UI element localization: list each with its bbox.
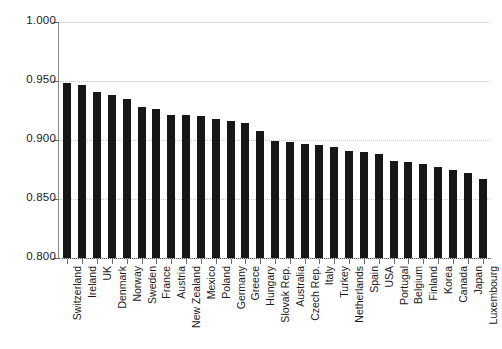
bar	[271, 141, 279, 258]
bar	[256, 131, 264, 258]
x-tick-label: Norway	[131, 266, 143, 302]
bar	[212, 119, 220, 258]
y-tick-label: 0.900	[0, 132, 56, 144]
x-tick-mark	[349, 259, 350, 264]
x-tick-label: France	[160, 266, 172, 299]
x-tick-label: USA	[383, 266, 395, 288]
x-tick-label: Greece	[249, 266, 261, 300]
x-tick-label: Ireland	[86, 266, 98, 298]
x-tick-mark	[483, 259, 484, 264]
x-tick-label: Portugal	[398, 266, 410, 305]
x-tick-mark	[216, 259, 217, 264]
x-tick-mark	[275, 259, 276, 264]
x-tick-mark	[379, 259, 380, 264]
x-tick-label: Germany	[235, 266, 247, 309]
x-tick-mark	[468, 259, 469, 264]
x-tick-label: Slovak Rep.	[279, 266, 291, 323]
x-tick-label: Czech Rep.	[309, 266, 321, 321]
x-tick-mark	[67, 259, 68, 264]
x-tick-label: Sweden	[146, 266, 158, 304]
bar	[123, 99, 131, 258]
bar	[286, 142, 294, 258]
x-tick-label: Hungary	[264, 266, 276, 306]
x-tick-label: Netherlands	[353, 266, 365, 323]
bar	[479, 179, 487, 258]
bar	[93, 92, 101, 258]
bar	[182, 115, 190, 258]
x-tick-label: UK	[101, 266, 113, 281]
x-tick-mark	[438, 259, 439, 264]
x-tick-label: Luxembourg	[487, 266, 499, 324]
x-tick-mark	[142, 259, 143, 264]
y-tick-label: 0.800	[0, 250, 56, 262]
x-tick-label: Canada	[457, 266, 469, 303]
x-tick-mark	[127, 259, 128, 264]
x-tick-mark	[231, 259, 232, 264]
x-tick-label: Korea	[442, 266, 454, 294]
bar	[108, 95, 116, 258]
bar	[330, 147, 338, 258]
bar	[301, 144, 309, 258]
x-tick-label: Spain	[368, 266, 380, 293]
x-tick-mark	[394, 259, 395, 264]
x-tick-mark	[334, 259, 335, 264]
bar	[434, 167, 442, 258]
x-tick-label: Finland	[427, 266, 439, 300]
bar	[345, 151, 353, 258]
bar-chart: 1.0000.9500.9000.8500.800 SwitzerlandIre…	[0, 0, 502, 349]
x-tick-mark	[408, 259, 409, 264]
bar	[449, 170, 457, 259]
y-tick-label: 0.850	[0, 191, 56, 203]
x-tick-label: Austria	[175, 266, 187, 299]
x-tick-mark	[305, 259, 306, 264]
x-tick-mark	[364, 259, 365, 264]
y-tick-label: 1.000	[0, 14, 56, 26]
x-tick-mark	[82, 259, 83, 264]
bar	[464, 173, 472, 258]
x-tick-label: New Zealand	[190, 266, 202, 328]
bar	[167, 115, 175, 258]
x-tick-mark	[171, 259, 172, 264]
x-tick-label: Switzerland	[71, 266, 83, 320]
bar	[375, 154, 383, 258]
bar	[241, 123, 249, 258]
x-tick-label: Japan	[472, 266, 484, 295]
bar	[227, 121, 235, 258]
bar	[390, 161, 398, 258]
x-tick-mark	[260, 259, 261, 264]
plot-area	[60, 22, 490, 258]
bar	[404, 162, 412, 258]
x-tick-mark	[156, 259, 157, 264]
x-tick-mark	[201, 259, 202, 264]
bar	[63, 83, 71, 258]
x-tick-mark	[290, 259, 291, 264]
y-tick-label: 0.950	[0, 73, 56, 85]
bar	[138, 107, 146, 258]
x-tick-label: Australia	[294, 266, 306, 307]
x-tick-mark	[319, 259, 320, 264]
bar	[197, 116, 205, 258]
x-tick-mark	[423, 259, 424, 264]
x-tick-label: Mexico	[205, 266, 217, 299]
x-tick-mark	[245, 259, 246, 264]
x-tick-label: Denmark	[116, 266, 128, 309]
x-tick-label: Belgium	[412, 266, 424, 304]
bar	[315, 145, 323, 258]
x-tick-mark	[112, 259, 113, 264]
x-tick-label: Italy	[323, 266, 335, 285]
bar	[360, 152, 368, 258]
x-tick-label: Poland	[220, 266, 232, 299]
bar	[419, 164, 427, 258]
x-tick-label: Turkey	[338, 266, 350, 298]
x-tick-mark	[97, 259, 98, 264]
x-tick-mark	[453, 259, 454, 264]
bar	[152, 109, 160, 258]
bar	[78, 85, 86, 258]
x-tick-mark	[186, 259, 187, 264]
